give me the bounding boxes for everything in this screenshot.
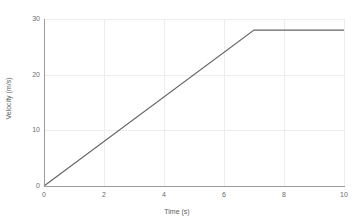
y-tick-label: 20 xyxy=(20,71,40,79)
x-axis-title: Time (s) xyxy=(0,208,354,215)
x-tick-label: 10 xyxy=(334,191,354,199)
series-velocity-line xyxy=(44,19,344,186)
x-tick-label: 8 xyxy=(274,191,294,199)
x-tick-label: 6 xyxy=(214,191,234,199)
y-axis-line xyxy=(44,19,45,186)
x-tick-label: 0 xyxy=(34,191,54,199)
x-tick-label: 4 xyxy=(154,191,174,199)
y-axis-title: Velocity (m/s) xyxy=(5,59,12,139)
velocity-time-chart: 0102030 0246810 Time (s) Velocity (m/s) xyxy=(0,0,354,223)
y-tick-label: 10 xyxy=(20,126,40,134)
x-axis-line xyxy=(44,186,345,187)
plot-area xyxy=(44,19,344,186)
x-tick-label: 2 xyxy=(94,191,114,199)
y-tick-label: 0 xyxy=(20,182,40,190)
y-tick-label: 30 xyxy=(20,15,40,23)
